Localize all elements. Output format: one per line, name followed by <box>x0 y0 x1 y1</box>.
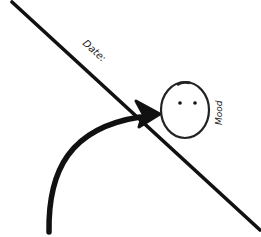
left-eye-icon <box>178 101 182 105</box>
date-label: Date: <box>81 37 109 63</box>
right-eye-icon <box>193 101 197 105</box>
sketch-diagram: Date: Mood <box>0 0 261 237</box>
arrowhead-icon <box>136 101 160 127</box>
curved-arrow <box>49 117 140 232</box>
face-icon <box>161 82 209 138</box>
mood-label: Mood <box>214 100 224 125</box>
